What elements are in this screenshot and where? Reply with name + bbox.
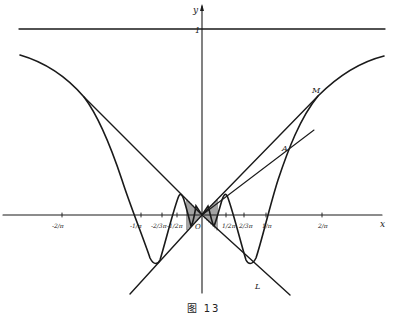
curve-left: [20, 55, 202, 264]
tick-label-neg-2-3pi: -2/3π: [151, 222, 168, 229]
bound-line-upper-left: [84, 97, 202, 215]
point-label-l: L: [254, 282, 260, 291]
y-axis-arrow: [200, 4, 204, 11]
point-label-a: A: [281, 144, 288, 153]
tick-label-neg-1-pi: -1/π: [130, 222, 143, 229]
tick-label-neg-2-pi: -2/π: [52, 222, 65, 229]
tick-label-2-3pi: 2/3π: [238, 222, 254, 229]
tick-label-1-pi: 1/π: [262, 222, 273, 229]
y-axis-label: y: [192, 5, 199, 15]
figure-caption: 图 13: [0, 300, 407, 315]
asymptote-label: 1: [195, 26, 200, 35]
x-axis-label: x: [380, 219, 385, 229]
tick-label-2-pi: 2/π: [317, 222, 329, 229]
tangent-line-m: [202, 96, 318, 215]
curve-right: [202, 56, 384, 264]
tick-label-1-2pi: 1/2π: [222, 222, 237, 229]
secant-line-a: [202, 130, 314, 215]
point-label-m: M: [311, 86, 321, 95]
function-graph: y 1 x O M A L -2/π -1/π -2/3π -1/2π 1/2π…: [0, 0, 407, 329]
tick-label-neg-1-2pi: -1/2π: [167, 222, 184, 229]
origin-label: O: [195, 223, 201, 231]
